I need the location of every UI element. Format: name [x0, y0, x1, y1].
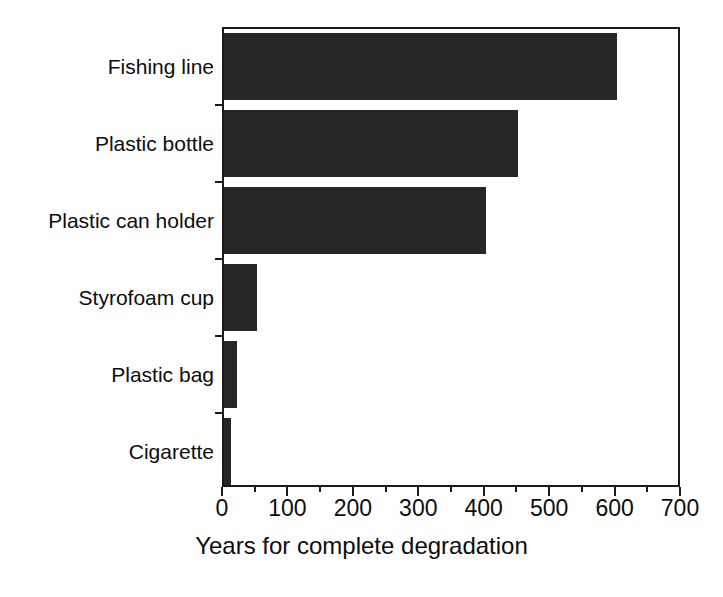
- x-axis-tick-minor: [385, 487, 387, 492]
- bar-styrofoam-cup: [224, 264, 257, 331]
- category-label-plastic-bag: Plastic bag: [0, 363, 214, 387]
- x-axis-tick-label: 500: [530, 497, 568, 520]
- bar-plastic-bag: [224, 341, 237, 408]
- x-axis-tick-minor: [581, 487, 583, 492]
- x-axis-tick-label: 300: [399, 497, 437, 520]
- x-axis-tick-label: 400: [465, 497, 503, 520]
- x-axis-tick-label: 100: [268, 497, 306, 520]
- bar-cigarette: [224, 418, 231, 485]
- x-axis-tick-label: 200: [334, 497, 372, 520]
- bar-plastic-bottle: [224, 110, 518, 177]
- x-axis-tick-minor: [646, 487, 648, 492]
- plot-area: [222, 27, 680, 487]
- x-axis-tick-minor: [254, 487, 256, 492]
- category-label-styrofoam-cup: Styrofoam cup: [0, 286, 214, 310]
- x-axis-tick-minor: [450, 487, 452, 492]
- category-label-fishing-line: Fishing line: [0, 55, 214, 79]
- x-axis-tick-minor: [515, 487, 517, 492]
- category-label-plastic-bottle: Plastic bottle: [0, 132, 214, 156]
- x-axis-tick-minor: [319, 487, 321, 492]
- x-axis-title: Years for complete degradation: [0, 534, 723, 558]
- x-axis-tick-label: 600: [595, 497, 633, 520]
- x-axis-tick-label: 700: [661, 497, 699, 520]
- bar-plastic-can-holder: [224, 187, 486, 254]
- bar-chart-figure: Fishing line Plastic bottle Plastic can …: [0, 0, 723, 597]
- bar-fishing-line: [224, 33, 617, 100]
- category-label-plastic-can-holder: Plastic can holder: [0, 209, 214, 233]
- x-axis-tick-label: 0: [216, 497, 229, 520]
- category-label-cigarette: Cigarette: [0, 440, 214, 464]
